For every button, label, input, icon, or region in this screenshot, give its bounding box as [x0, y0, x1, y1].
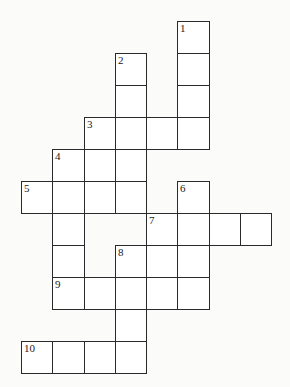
crossword-cell[interactable]	[240, 213, 272, 246]
crossword-cell[interactable]	[115, 117, 147, 150]
crossword-cell[interactable]	[84, 149, 116, 182]
crossword-cell[interactable]: 10	[21, 341, 53, 374]
crossword-grid: 12345678910	[0, 0, 290, 387]
clue-number: 5	[24, 182, 30, 194]
clue-number: 7	[149, 214, 155, 226]
crossword-cell[interactable]: 2	[115, 53, 147, 86]
crossword-cell[interactable]	[52, 213, 85, 246]
crossword-cell[interactable]	[115, 149, 147, 182]
crossword-cell[interactable]: 9	[52, 277, 85, 310]
crossword-cell[interactable]	[52, 245, 85, 278]
crossword-cell[interactable]	[177, 245, 210, 278]
clue-number: 1	[180, 22, 186, 34]
crossword-cell[interactable]	[177, 85, 210, 118]
clue-number: 2	[118, 54, 124, 66]
crossword-cell[interactable]	[177, 53, 210, 86]
crossword-cell[interactable]	[115, 309, 147, 342]
crossword-cell[interactable]	[115, 277, 147, 310]
clue-number: 8	[118, 246, 124, 258]
clue-number: 6	[180, 182, 186, 194]
crossword-cell[interactable]	[146, 245, 178, 278]
crossword-cell[interactable]: 8	[115, 245, 147, 278]
crossword-cell[interactable]	[209, 213, 241, 246]
crossword-cell[interactable]: 1	[177, 21, 210, 54]
crossword-cell[interactable]	[52, 181, 85, 214]
crossword-cell[interactable]	[146, 277, 178, 310]
crossword-cell[interactable]: 6	[177, 181, 210, 214]
crossword-cell[interactable]	[115, 341, 147, 374]
clue-number: 4	[55, 150, 61, 162]
crossword-cell[interactable]	[177, 277, 210, 310]
crossword-cell[interactable]	[84, 181, 116, 214]
clue-number: 10	[24, 342, 35, 354]
crossword-cell[interactable]	[177, 117, 210, 150]
clue-number: 3	[87, 118, 93, 130]
crossword-cell[interactable]: 7	[146, 213, 178, 246]
crossword-cell[interactable]: 3	[84, 117, 116, 150]
crossword-cell[interactable]	[177, 213, 210, 246]
clue-number: 9	[55, 278, 61, 290]
crossword-cell[interactable]: 4	[52, 149, 85, 182]
crossword-cell[interactable]	[115, 85, 147, 118]
crossword-cell[interactable]	[115, 181, 147, 214]
crossword-cell[interactable]	[84, 341, 116, 374]
crossword-cell[interactable]	[84, 277, 116, 310]
crossword-cell[interactable]: 5	[21, 181, 53, 214]
crossword-cell[interactable]	[146, 117, 178, 150]
crossword-cell[interactable]	[52, 341, 85, 374]
